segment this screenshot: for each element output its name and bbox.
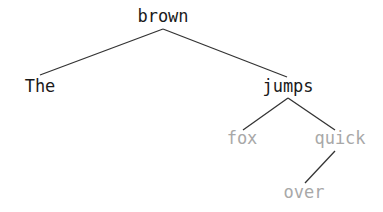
- node-brown: brown: [137, 6, 188, 26]
- edge-jumps-fox: [243, 98, 288, 130]
- edge-jumps-quick: [288, 98, 335, 130]
- node-over: over: [284, 182, 325, 202]
- dependency-tree: brown The jumps fox quick over: [0, 0, 383, 212]
- node-jumps: jumps: [262, 76, 313, 96]
- node-fox: fox: [227, 128, 258, 148]
- edge-brown-jumps: [163, 29, 287, 77]
- node-the: The: [25, 76, 56, 96]
- edge-brown-the: [40, 29, 163, 75]
- tree-edges: [0, 0, 383, 212]
- node-quick: quick: [314, 128, 365, 148]
- edge-quick-over: [305, 151, 335, 183]
